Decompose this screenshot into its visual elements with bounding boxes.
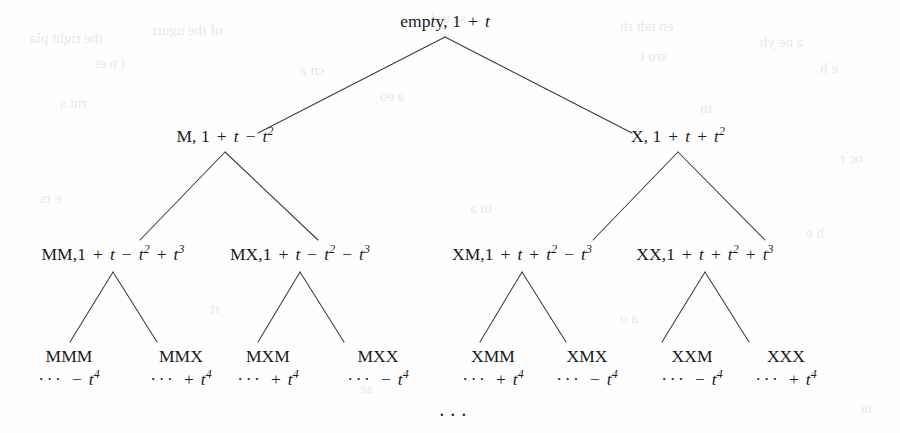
node-tail-MXX: ··· − t4 — [347, 370, 408, 390]
node-label-MXX: MXX — [347, 347, 408, 367]
node-label-XX: XX,1 + t + t2 + t3 — [636, 245, 773, 265]
node-label-XMX: XMX — [556, 347, 617, 367]
tree-node-MMX: MMX··· + t4 — [150, 347, 211, 389]
tree-node-root: empty, 1 + t — [400, 12, 490, 32]
tree-node-MM: MM,1 + t − t2 + t3 — [41, 245, 184, 265]
tree-edge-MX-to-MXX — [300, 272, 344, 342]
node-label-MMX: MMX — [150, 347, 211, 367]
tree-node-MXX: MXX··· − t4 — [347, 347, 408, 389]
tree-edge-X-to-XX — [678, 152, 765, 240]
node-label-XMM: XMM — [462, 347, 523, 367]
node-label-XM: XM,1 + t + t2 − t3 — [452, 245, 592, 265]
tree-edge-root-to-M — [258, 37, 445, 133]
node-label-MM: MM,1 + t − t2 + t3 — [41, 245, 184, 265]
tree-node-M: M, 1 + t − t2 — [176, 127, 273, 147]
node-tail-XMX: ··· − t4 — [556, 370, 617, 390]
tree-edge-M-to-MM — [140, 152, 225, 240]
node-label-root: empty, 1 + t — [400, 12, 490, 32]
node-tail-XXM: ··· − t4 — [661, 370, 722, 390]
tree-edge-XM-to-XMX — [522, 272, 566, 342]
tree-edge-XX-to-XXM — [662, 272, 705, 342]
tree-edge-X-to-XM — [593, 152, 678, 240]
node-tail-MXM: ··· + t4 — [237, 370, 298, 390]
node-label-MX: MX,1 + t − t2 − t3 — [230, 245, 370, 265]
node-label-X: X, 1 + t + t2 — [631, 127, 725, 147]
tree-diagram-figure: the right plaof the ngurcsa trclen ndt r… — [0, 0, 900, 433]
tree-edge-XM-to-XMM — [480, 272, 522, 342]
tree-node-XXM: XXM··· − t4 — [661, 347, 722, 389]
tree-node-X: X, 1 + t + t2 — [631, 127, 725, 147]
tree-edge-MX-to-MXM — [258, 272, 300, 342]
tree-node-MX: MX,1 + t − t2 − t3 — [230, 245, 370, 265]
node-label-XXM: XXM — [661, 347, 722, 367]
node-label-M: M, 1 + t − t2 — [176, 127, 273, 147]
node-tail-MMM: ··· − t4 — [38, 370, 99, 390]
tree-node-XXX: XXX··· + t4 — [755, 347, 816, 389]
tree-node-XX: XX,1 + t + t2 + t3 — [636, 245, 773, 265]
tree-edge-M-to-MX — [225, 152, 318, 240]
node-tail-XMM: ··· + t4 — [462, 370, 523, 390]
tree-node-XMX: XMX··· − t4 — [556, 347, 617, 389]
node-label-MXM: MXM — [237, 347, 298, 367]
node-tail-XXX: ··· + t4 — [755, 370, 816, 390]
node-label-XXX: XXX — [755, 347, 816, 367]
tree-edge-root-to-X — [445, 37, 632, 133]
tree-node-MMM: MMM··· − t4 — [38, 347, 99, 389]
tree-node-XMM: XMM··· + t4 — [462, 347, 523, 389]
tree-edge-MM-to-MMM — [70, 272, 113, 342]
continuation-ellipsis: ··· — [438, 404, 471, 427]
tree-node-XM: XM,1 + t + t2 − t3 — [452, 245, 592, 265]
tree-edge-XX-to-XXX — [705, 272, 749, 342]
node-tail-MMX: ··· + t4 — [150, 370, 211, 390]
tree-node-MXM: MXM··· + t4 — [237, 347, 298, 389]
node-label-MMM: MMM — [38, 347, 99, 367]
tree-edge-MM-to-MMX — [113, 272, 157, 342]
